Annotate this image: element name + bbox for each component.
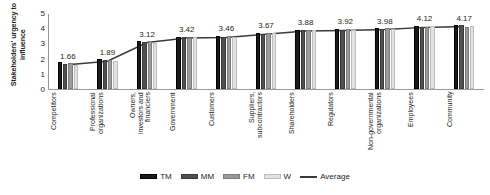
x-axis-label: Community [446,92,482,162]
data-label: 3.88 [298,19,314,27]
x-axis-label: Shareholders [288,92,324,162]
bar-w [193,37,197,89]
legend-item[interactable]: W [264,172,292,181]
bar-tm [256,33,260,89]
legend-label: FM [243,172,255,181]
legend-swatch-w [264,174,281,179]
data-label: 1.66 [60,53,76,61]
chart-legend: TMMMFMWAverage [0,172,490,181]
bar-fm [266,33,270,89]
data-label: 1.89 [100,49,116,57]
bar-w [272,33,276,89]
bar-mm [63,64,67,89]
bar-w [391,29,395,89]
bar-fm [108,60,112,89]
bar-w [153,43,157,89]
data-label: 3.98 [377,18,393,26]
legend-item[interactable]: MM [181,172,214,181]
data-label: 4.17 [456,15,472,23]
legend-label: W [284,172,292,181]
bar-fm [306,30,310,89]
legend-swatch-line [300,174,317,179]
bar-tm [335,29,339,89]
bar-fm [385,28,389,89]
bar-tm [295,30,299,89]
bar-group [405,13,445,89]
bar-tm [414,26,418,89]
legend-item[interactable]: FM [223,172,255,181]
bar-mm [459,25,463,89]
bar-mm [301,30,305,89]
data-label: 3.92 [337,18,353,26]
legend-label: MM [201,172,214,181]
bar-w [113,61,117,89]
x-axis-label: Suppliers, subcontractors [248,92,284,162]
bar-tm [454,25,458,89]
bar-w [470,26,474,89]
legend-swatch-mm [181,174,198,179]
bar-w [430,26,434,89]
stakeholder-urgency-bar-chart: Stakeholders' urgency to influence 54321… [0,0,490,195]
data-label: 4.12 [417,15,433,23]
y-axis-tick: 4 [41,25,45,33]
bar-w [312,30,316,89]
x-axis-label: Non-governmental organizations [367,92,403,162]
bar-mm [103,60,107,89]
bar-w [351,30,355,89]
bar-fm [68,63,72,89]
y-axis-tick: 3 [41,40,45,48]
x-axis-label: Owners, investors and financiers [129,92,165,162]
bar-fm [465,27,469,89]
legend-label: Average [320,172,350,181]
bar-tm [137,41,141,89]
legend-item[interactable]: Average [300,172,350,181]
legend-item[interactable]: TM [140,172,172,181]
bar-group [127,13,167,89]
y-axis-tick: 2 [41,56,45,64]
bar-fm [148,41,152,89]
bar-mm [380,29,384,89]
y-axis-tick-labels: 543210 [33,14,45,92]
bar-tm [58,62,62,89]
y-axis-tick: 5 [41,10,45,18]
bar-tm [216,36,220,89]
bar-w [74,65,78,89]
bar-w [232,37,236,89]
bar-group [444,13,484,89]
x-axis-label: Regulators [327,92,363,162]
x-axis-label: Professional organizations [89,92,125,162]
x-axis-label: Government [169,92,205,162]
legend-swatch-fm [223,174,240,179]
bar-tm [97,59,101,89]
bar-mm [261,34,265,89]
legend-swatch-tm [140,174,157,179]
data-label: 3.12 [139,31,155,39]
bar-fm [187,38,191,89]
bar-mm [340,30,344,89]
x-axis-label: Employees [407,92,443,162]
bar-mm [221,37,225,89]
x-axis-label: Customers [208,92,244,162]
y-axis-tick: 0 [41,86,45,94]
y-axis-tick: 1 [41,71,45,79]
bar-mm [142,42,146,89]
bar-tm [176,37,180,89]
bar-fm [227,36,231,90]
bar-mm [182,37,186,89]
bar-tm [375,28,379,89]
bar-fm [425,27,429,89]
y-axis-title: Stakeholders' urgency to influence [10,0,27,100]
bar-fm [346,29,350,89]
data-label: 3.46 [219,25,235,33]
x-axis-label: Competitors [50,92,86,162]
x-axis-category-labels: CompetitorsProfessional organizationsOwn… [48,92,484,164]
legend-label: TM [160,172,172,181]
plot-area: 1.661.893.123.423.463.673.883.923.984.12… [48,14,484,90]
data-label: 3.42 [179,26,195,34]
data-label: 3.67 [258,22,274,30]
bar-mm [420,27,424,89]
